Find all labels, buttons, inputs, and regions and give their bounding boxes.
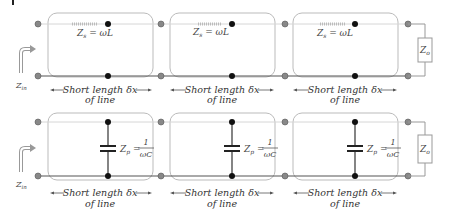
- svg-text:1: 1: [267, 138, 272, 147]
- svg-text:Zin: Zin: [15, 81, 27, 91]
- junction-node: [229, 73, 235, 79]
- svg-text:Short length δx: Short length δx: [63, 187, 138, 198]
- svg-text:of line: of line: [85, 198, 115, 209]
- corner-mark: [12, 0, 14, 5]
- svg-text:of line: of line: [330, 94, 360, 105]
- svg-text:of line: of line: [330, 198, 360, 209]
- dimension-label-1: Short length δx of line: [50, 187, 152, 209]
- shunt-impedance-label-1: Zp = 1 ωC: [119, 138, 154, 159]
- svg-text:Zs = ωL: Zs = ωL: [76, 28, 113, 39]
- svg-text:Zp =: Zp =: [119, 144, 141, 156]
- junction-node: [229, 119, 235, 125]
- junction-node: [105, 119, 111, 125]
- bottom-circuit: Zo Zp = 1 ωC Zp = 1 ωC Zp = 1 ωC Zin: [15, 113, 432, 209]
- terminal-node: [282, 119, 288, 125]
- svg-text:Short length δx: Short length δx: [308, 187, 383, 198]
- terminal-node: [35, 21, 41, 27]
- dimension-label-3: Short length δx of line: [293, 84, 397, 105]
- junction-node: [229, 173, 235, 179]
- svg-text:of line: of line: [207, 94, 237, 105]
- input-arrow-icon: [21, 45, 36, 73]
- dimension-label-3: Short length δx of line: [293, 187, 397, 209]
- svg-text:of line: of line: [207, 198, 237, 209]
- terminal-node: [35, 73, 41, 79]
- svg-text:1: 1: [390, 138, 395, 147]
- terminal-node: [158, 73, 164, 79]
- junction-node: [352, 21, 358, 27]
- svg-text:Zin: Zin: [15, 180, 27, 190]
- svg-text:Short length δx: Short length δx: [185, 187, 260, 198]
- svg-text:ωC: ωC: [387, 150, 400, 159]
- junction-node: [105, 73, 111, 79]
- svg-text:of line: of line: [85, 94, 115, 105]
- terminal-node: [282, 73, 288, 79]
- section-box-1: [48, 13, 153, 77]
- terminal-node: [158, 173, 164, 179]
- section-box-2: [170, 13, 275, 77]
- svg-text:Zp =: Zp =: [243, 144, 265, 156]
- shunt-impedance-label-3: Zp = 1 ωC: [366, 138, 401, 159]
- dimension-label-2: Short length δx of line: [170, 187, 274, 209]
- svg-text:Zs = ωL: Zs = ωL: [316, 28, 353, 39]
- svg-text:ωC: ωC: [264, 150, 277, 159]
- terminal-node: [282, 21, 288, 27]
- dimension-label-1: Short length δx of line: [50, 84, 152, 105]
- terminal-node: [35, 173, 41, 179]
- top-circuit: Zo Zs = ωL Zs = ωL Zs = ωL Zin Short len…: [15, 13, 432, 105]
- terminal-node: [282, 173, 288, 179]
- terminal-node: [158, 119, 164, 125]
- terminal-node: [158, 21, 164, 27]
- capacitor-icon-1: [100, 122, 116, 176]
- junction-node: [352, 73, 358, 79]
- capacitor-icon-2: [224, 122, 240, 176]
- svg-text:Zp =: Zp =: [366, 144, 388, 156]
- terminal-node: [35, 119, 41, 125]
- junction-node: [352, 119, 358, 125]
- capacitor-icon-3: [347, 122, 363, 176]
- shunt-impedance-label-2: Zp = 1 ωC: [243, 138, 278, 159]
- junction-node: [105, 21, 111, 27]
- transmission-line-diagram: Zo Zs = ωL Zs = ωL Zs = ωL Zin Short len…: [0, 0, 449, 216]
- junction-node: [229, 21, 235, 27]
- svg-text:1: 1: [143, 138, 148, 147]
- svg-text:ωC: ωC: [140, 150, 153, 159]
- junction-node: [352, 173, 358, 179]
- junction-node: [105, 173, 111, 179]
- input-arrow-icon: [21, 144, 36, 172]
- dimension-label-2: Short length δx of line: [170, 84, 274, 105]
- svg-text:Zs = ωL: Zs = ωL: [192, 27, 229, 38]
- section-box-3: [293, 13, 398, 77]
